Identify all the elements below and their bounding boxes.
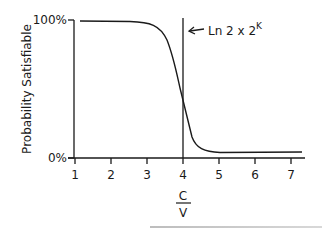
x-tick-label-2: 2: [107, 168, 115, 182]
x-ticks: [75, 158, 291, 164]
x-tick-label-4: 4: [179, 168, 187, 182]
threshold-annotation-superscript: K: [256, 21, 263, 31]
x-axis-label-numerator: C: [179, 189, 187, 203]
arrow-left-icon: [189, 27, 204, 34]
x-tick-label-1: 1: [71, 168, 79, 182]
x-tick-label-5: 5: [215, 168, 223, 182]
threshold-annotation-text: Ln 2 x 2: [208, 24, 256, 38]
y-axis-label: Probability Satisfiable: [20, 24, 34, 154]
x-tick-label-7: 7: [287, 168, 295, 182]
divider: [150, 226, 322, 228]
x-axis-label-denominator: V: [179, 206, 188, 220]
threshold-annotation: Ln 2 x 2K: [208, 21, 263, 38]
y-tick-label-0: 0%: [48, 151, 67, 165]
y-tick-label-100: 100%: [33, 13, 67, 27]
x-tick-label-3: 3: [143, 168, 151, 182]
chart: 100% 0% Probability Satisfiable 1 2 3 4 …: [0, 0, 322, 230]
x-tick-label-6: 6: [251, 168, 259, 182]
probability-curve: [80, 21, 302, 153]
